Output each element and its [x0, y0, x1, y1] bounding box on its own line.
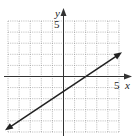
y-tick-label-5: 5 — [54, 18, 60, 30]
x-tick-label-5: 5 — [114, 79, 120, 91]
coordinate-graph: y 5 5 x — [0, 0, 139, 139]
x-axis — [4, 74, 132, 80]
x-axis-label: x — [124, 79, 130, 91]
y-axis — [61, 8, 67, 136]
